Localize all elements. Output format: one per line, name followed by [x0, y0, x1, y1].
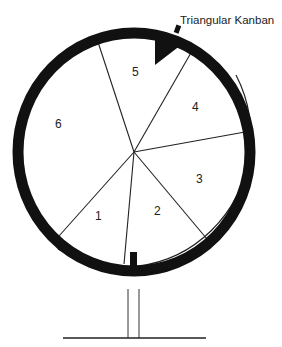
kanban-wheel-diagram: Triangular Kanban 5 4 6 3 2 1: [0, 0, 282, 347]
spoke-1-2: [124, 152, 134, 264]
spoke-6-1: [59, 152, 134, 236]
segment-label-2: 2: [154, 204, 161, 218]
spoke-2-3: [134, 152, 207, 239]
wheel-stand: [63, 289, 206, 338]
spoke-5-6: [97, 39, 134, 152]
outer-track-arc: [58, 75, 251, 267]
spoke-3-4: [134, 132, 245, 152]
segment-label-4: 4: [192, 100, 199, 114]
spoke-4-5: [134, 51, 192, 152]
segment-label-6: 6: [55, 117, 62, 131]
segment-label-5: 5: [132, 65, 139, 79]
segment-label-1: 1: [95, 209, 102, 223]
triangular-kanban-label: Triangular Kanban: [180, 14, 274, 26]
position-marker: [130, 252, 137, 266]
segment-label-3: 3: [196, 172, 203, 186]
